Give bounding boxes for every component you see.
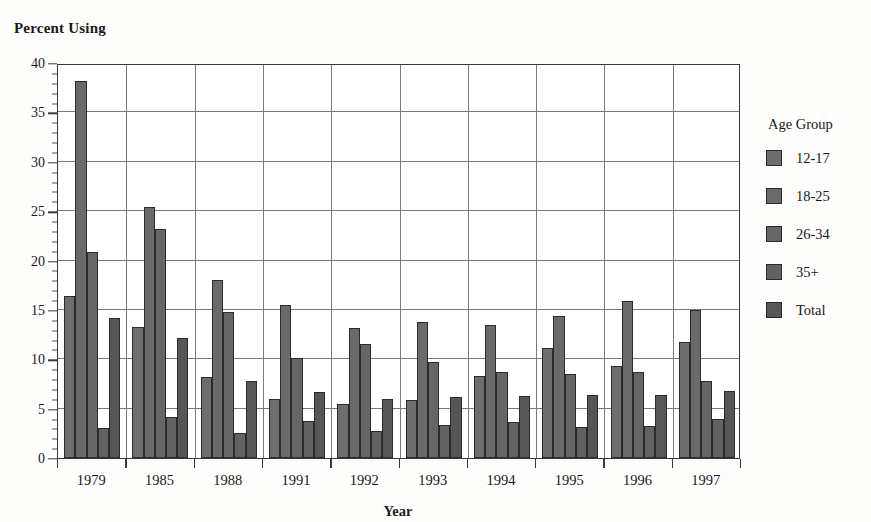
y-axis-tick [48, 162, 57, 163]
y-axis-label: 25 [31, 205, 45, 219]
x-axis-tick [194, 459, 195, 468]
legend-items: 12-1718-2526-3435+Total [766, 147, 871, 321]
bar [428, 362, 439, 458]
x-axis-tick [603, 459, 604, 468]
legend-swatch [766, 188, 782, 204]
plot-area [57, 64, 740, 459]
x-axis-tick [672, 459, 673, 468]
legend-item: 18-25 [766, 185, 871, 207]
bar-group [195, 65, 263, 458]
bar [144, 207, 155, 458]
y-axis-label: 35 [31, 106, 45, 120]
bar [690, 310, 701, 458]
bar [212, 280, 223, 458]
bar [98, 428, 109, 458]
y-axis-tick [48, 113, 57, 114]
x-axis: Year 19791985198819911992199319941995199… [0, 459, 871, 522]
y-axis-tick [48, 310, 57, 311]
bar-group [263, 65, 331, 458]
legend-item: 12-17 [766, 147, 871, 169]
legend-swatch [766, 302, 782, 318]
bar [201, 377, 212, 458]
y-axis-tick [48, 261, 57, 262]
bar [417, 322, 428, 458]
bar [314, 392, 325, 458]
bar [553, 316, 564, 458]
y-axis-label: 15 [31, 304, 45, 318]
bar-group [604, 65, 672, 458]
bar [177, 338, 188, 458]
bar [474, 376, 485, 458]
bar-chart: Percent Using 0510152025303540 Year 1979… [0, 0, 871, 522]
legend-item-label: 26-34 [796, 227, 830, 242]
bar-group [536, 65, 604, 458]
bar [701, 381, 712, 458]
legend-swatch [766, 150, 782, 166]
bar [64, 296, 75, 458]
bar [166, 417, 177, 458]
x-axis-tick [535, 459, 536, 468]
y-axis-tick [48, 409, 57, 410]
bar-group [331, 65, 399, 458]
legend-item-label: 12-17 [796, 151, 830, 166]
bar [75, 81, 86, 458]
bar-group [126, 65, 194, 458]
x-axis-label: 1993 [418, 473, 447, 488]
y-axis-tick [48, 63, 57, 64]
bar [519, 396, 530, 458]
bar [633, 372, 644, 458]
bar [655, 395, 666, 458]
x-axis-tick [57, 459, 58, 468]
bar [155, 229, 166, 458]
x-axis-title: Year [384, 503, 413, 520]
bar [406, 400, 417, 458]
x-axis-label: 1995 [555, 473, 584, 488]
y-axis-tick [48, 360, 57, 361]
bar [712, 419, 723, 459]
bar [360, 344, 371, 458]
bar [496, 372, 507, 458]
bar [349, 328, 360, 458]
bar-group [468, 65, 536, 458]
bar [303, 421, 314, 458]
bar [223, 312, 234, 458]
bar [679, 342, 690, 458]
y-axis-label: 10 [31, 353, 45, 367]
bar [234, 433, 245, 458]
bar-group [400, 65, 468, 458]
bar [439, 425, 450, 458]
bar [87, 252, 98, 458]
bar [269, 399, 280, 458]
legend-item-label: Total [796, 303, 826, 318]
x-axis-label: 1994 [486, 473, 515, 488]
x-axis-label: 1996 [623, 473, 652, 488]
bar-group [58, 65, 126, 458]
x-axis-label: 1991 [282, 473, 311, 488]
bar [371, 431, 382, 458]
bar [280, 305, 291, 458]
legend-item-label: 18-25 [796, 189, 830, 204]
x-axis-label: 1992 [350, 473, 379, 488]
x-axis-tick [740, 459, 741, 468]
bar [724, 391, 735, 458]
legend-swatch [766, 226, 782, 242]
legend: Age Group 12-1718-2526-3435+Total [766, 116, 871, 337]
bar-groups [58, 65, 739, 458]
x-axis-tick [330, 459, 331, 468]
bar [246, 381, 257, 458]
chart-title: Percent Using [14, 20, 106, 37]
bar [382, 399, 393, 458]
bar-group [673, 65, 741, 458]
y-axis-label: 20 [31, 255, 45, 269]
bar [644, 426, 655, 458]
bar [611, 366, 622, 458]
y-axis-label: 30 [31, 156, 45, 170]
y-axis-label: 5 [38, 403, 45, 417]
x-axis-tick [262, 459, 263, 468]
bar [485, 325, 496, 458]
legend-item: 26-34 [766, 223, 871, 245]
bar [337, 404, 348, 458]
y-axis-label: 40 [31, 57, 45, 71]
x-axis-label: 1997 [691, 473, 720, 488]
bar [450, 397, 461, 458]
